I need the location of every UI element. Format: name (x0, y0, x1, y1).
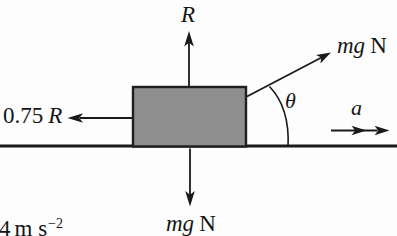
corner-units: m s (15, 216, 48, 236)
applied-force-symbol: mg (337, 33, 365, 58)
applied-force-unit: N (370, 33, 387, 58)
corner-exponent: −2 (48, 216, 63, 231)
friction-force-label: 0.75R (3, 104, 62, 127)
corner-value: 4 (0, 216, 11, 236)
normal-force-label: R (181, 3, 195, 26)
friction-symbol: R (48, 103, 62, 128)
applied-force-arrowhead (316, 53, 331, 64)
block (133, 87, 246, 147)
acceleration-label: a (351, 97, 362, 119)
corner-acceleration-value: 4m s−2 (0, 217, 63, 236)
force-diagram: R mgN θ a 0.75R mgN 4m s−2 (0, 0, 397, 236)
weight-symbol: mg (166, 211, 194, 236)
friction-coefficient: 0.75 (3, 103, 43, 128)
angle-label: θ (285, 90, 296, 112)
weight-force-label: mgN (166, 212, 216, 235)
weight-unit: N (199, 211, 216, 236)
applied-force-label: mgN (337, 34, 387, 57)
